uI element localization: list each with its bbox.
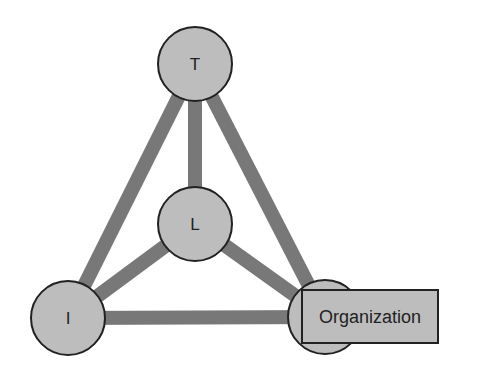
edge-i-o	[68, 317, 325, 318]
node-label: I	[66, 309, 71, 328]
node-label: L	[190, 215, 199, 234]
node-label: T	[190, 55, 200, 74]
node-i: I	[31, 281, 105, 355]
organization-label: Organization	[319, 307, 421, 327]
organization-label-box: Organization	[302, 290, 438, 343]
node-t: T	[158, 27, 232, 101]
node-l: L	[158, 187, 232, 261]
edge-t-i	[68, 64, 195, 318]
tetrahedron-diagram: TLI Organization	[0, 0, 477, 371]
